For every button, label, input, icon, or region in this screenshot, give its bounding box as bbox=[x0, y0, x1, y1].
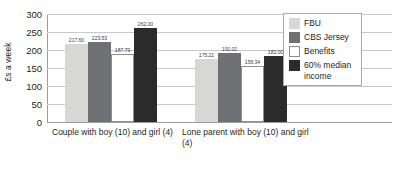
bar-value-label: 187.79 bbox=[115, 47, 130, 53]
bar: 262.00 bbox=[134, 28, 157, 122]
bar-fill bbox=[134, 28, 157, 122]
legend-swatch-icon bbox=[289, 32, 300, 43]
bar-value-label: 191.02 bbox=[222, 46, 237, 52]
bar-value-label: 175.21 bbox=[199, 52, 214, 58]
legend-item-0: FBU bbox=[289, 18, 357, 29]
bar-fill bbox=[65, 44, 88, 122]
legend-swatch-icon bbox=[289, 18, 300, 29]
bar-fill bbox=[88, 42, 111, 122]
bar: 156.34 bbox=[241, 66, 264, 122]
bar-value-label: 217.60 bbox=[69, 37, 84, 43]
legend-item-3: 60% median income bbox=[289, 60, 357, 81]
bar-chart: £s a week 050100150200250300217.60223.53… bbox=[0, 0, 398, 170]
legend-swatch-icon bbox=[289, 46, 300, 57]
y-axis-title: £s a week bbox=[3, 32, 13, 92]
x-category-label-0: Couple with boy (10) and girl (4) bbox=[52, 127, 182, 138]
bar-fill bbox=[111, 54, 134, 122]
bar: 217.60 bbox=[65, 44, 88, 122]
legend-swatch-icon bbox=[289, 60, 300, 71]
bar: 187.79 bbox=[111, 54, 134, 122]
bar-group-1: 175.21191.02156.34182.00 bbox=[195, 14, 287, 122]
legend-item-label: Benefits bbox=[304, 46, 335, 57]
legend-item-label: CBS Jersey bbox=[304, 32, 349, 43]
bar-group-0: 217.60223.53187.79262.00 bbox=[65, 14, 157, 122]
bar-value-label: 182.00 bbox=[268, 49, 283, 55]
bar-fill bbox=[218, 53, 241, 122]
y-tick-label-0: 0 bbox=[37, 117, 42, 128]
chart-legend: FBUCBS JerseyBenefits60% median income bbox=[283, 13, 362, 86]
y-tick-label-50: 50 bbox=[31, 99, 42, 110]
y-tick-label-200: 200 bbox=[26, 45, 42, 56]
y-tick-label-300: 300 bbox=[26, 9, 42, 20]
bar-value-label: 262.00 bbox=[138, 21, 153, 27]
legend-item-1: CBS Jersey bbox=[289, 32, 357, 43]
legend-item-label: FBU bbox=[304, 18, 321, 29]
y-tick-label-250: 250 bbox=[26, 27, 42, 38]
bar-value-label: 156.34 bbox=[245, 59, 260, 65]
y-tick-label-150: 150 bbox=[26, 63, 42, 74]
bar-fill bbox=[195, 59, 218, 122]
bar: 191.02 bbox=[218, 53, 241, 122]
legend-item-2: Benefits bbox=[289, 46, 357, 57]
bar: 223.53 bbox=[88, 42, 111, 122]
legend-item-label: 60% median income bbox=[304, 60, 357, 81]
bar-value-label: 223.53 bbox=[92, 35, 107, 41]
gridline-0 bbox=[47, 122, 392, 123]
x-category-label-1: Lone parent with boy (10) and girl (4) bbox=[182, 127, 312, 149]
bar: 175.21 bbox=[195, 59, 218, 122]
y-tick-label-100: 100 bbox=[26, 81, 42, 92]
bar-fill bbox=[241, 66, 264, 122]
